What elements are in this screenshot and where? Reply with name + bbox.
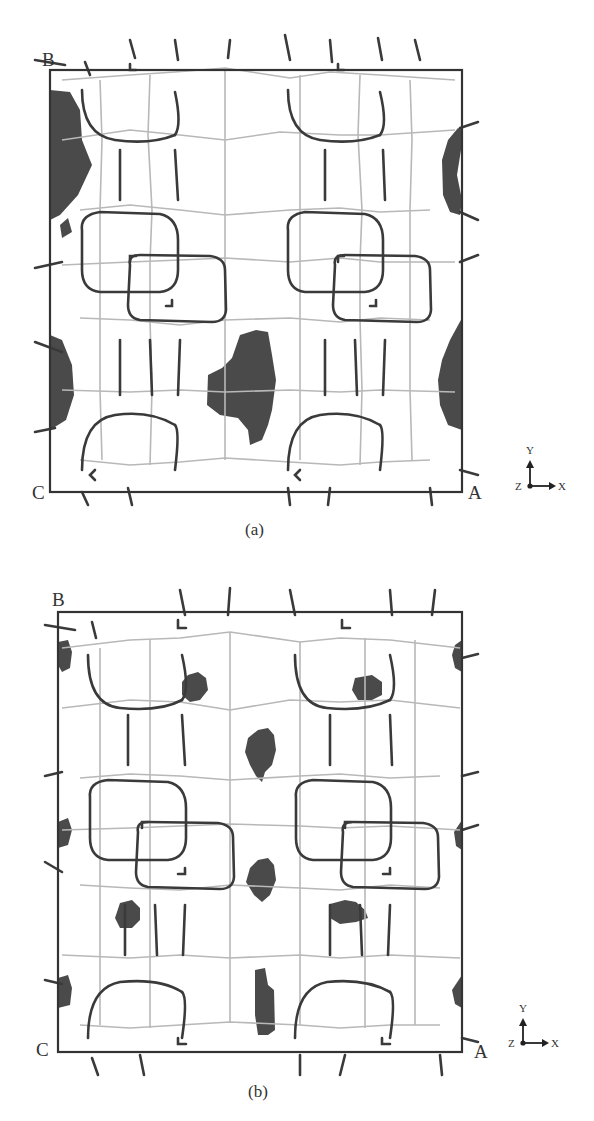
axis-triad-a — [526, 460, 556, 490]
panel-caption-b: (b) — [248, 1083, 268, 1100]
figure-panel-b: B C A Y Z X (b) — [0, 560, 594, 1121]
axis-triad-b — [519, 1018, 549, 1047]
corner-label-b: B — [52, 590, 65, 609]
panel-caption-a: (a) — [245, 521, 264, 538]
corner-label-b: B — [42, 50, 55, 69]
axis-label-z: Z — [515, 481, 522, 492]
axis-label-z: Z — [508, 1038, 515, 1049]
framework-structure-a — [0, 0, 594, 560]
axis-label-y: Y — [519, 1003, 527, 1014]
axis-label-x: X — [558, 481, 566, 492]
axis-label-x: X — [551, 1038, 559, 1049]
figure-panel-a: B C A Y Z X (a) — [0, 0, 594, 560]
framework-structure-b — [0, 560, 594, 1121]
axis-label-y: Y — [526, 445, 534, 456]
corner-label-a: A — [468, 483, 482, 502]
corner-label-c: C — [36, 1040, 49, 1059]
framework-light-b — [62, 632, 460, 1028]
density-regions-b — [58, 640, 462, 1035]
corner-label-c: C — [32, 483, 45, 502]
corner-label-a: A — [474, 1042, 488, 1061]
